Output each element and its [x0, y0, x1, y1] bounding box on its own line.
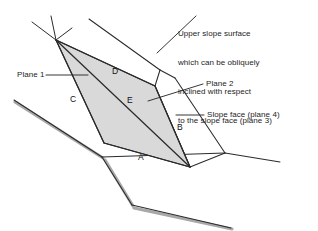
slope-face-node-to-wedge-toe: [190, 153, 225, 167]
plane-1-label: Plane 1: [17, 70, 44, 80]
crest-riser-line: [155, 70, 160, 86]
edge-label-d: D: [112, 66, 118, 76]
upper-slope-note-line-2: which can be obliquely: [178, 58, 272, 68]
upper-slope-surface-note: Upper slope surface which can be oblique…: [178, 10, 272, 144]
toe-hatch-right: [134, 208, 232, 229]
slope-face-label: Slope face (plane 4): [207, 110, 280, 120]
plane-extension-lines: [32, 16, 72, 40]
upper-slope-note-line-1: Upper slope surface: [178, 29, 272, 39]
crest-node-right-edge: [160, 70, 175, 78]
edge-label-c: C: [70, 94, 76, 104]
wedge-failure-diagram: Upper slope surface which can be oblique…: [0, 0, 318, 231]
edge-label-e: E: [127, 95, 133, 105]
toe-line-right: [132, 205, 231, 228]
slope-face-right-spur: [225, 153, 280, 162]
plane-2-label: Plane 2: [206, 79, 233, 89]
edge-label-a: A: [138, 152, 144, 162]
edge-label-b: B: [177, 122, 183, 132]
slope-line-left-lower: [102, 157, 132, 205]
plane-extension-line-right: [56, 28, 72, 40]
